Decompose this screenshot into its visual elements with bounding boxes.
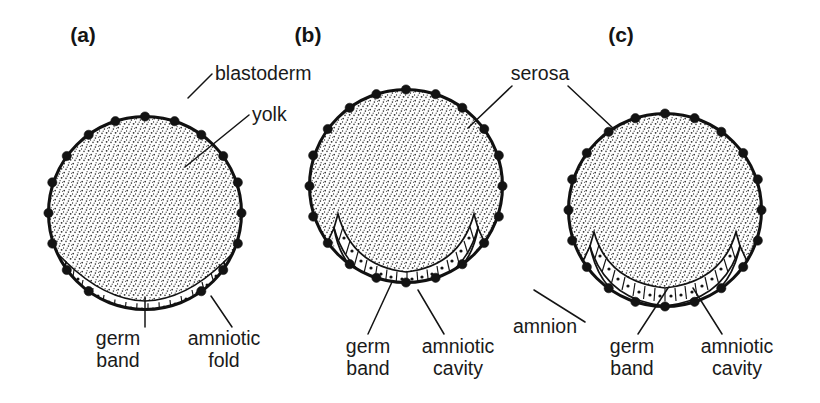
label-germ-band-b-line1: germ [346, 335, 390, 357]
panel-letter-b: (b) [295, 23, 322, 46]
label-amniotic-cavity-c-line1: amniotic [701, 335, 774, 357]
panel-c-egg [564, 109, 766, 344]
label-amniotic-fold-line1: amniotic [188, 327, 261, 349]
panel-letter-c: (c) [608, 23, 634, 46]
leader-germ-band-b [368, 282, 392, 334]
leader-serosa-right [568, 86, 615, 130]
label-amniotic-fold-line2: fold [208, 349, 239, 371]
label-blastoderm: blastoderm [215, 62, 311, 84]
label-germ-band-c-line1: germ [610, 335, 654, 357]
label-amnion: amnion [513, 315, 577, 337]
figure-container: (a) [0, 0, 820, 403]
label-germ-band-a-line2: band [96, 349, 139, 371]
leader-serosa-left [468, 86, 512, 128]
label-serosa: serosa [511, 62, 570, 84]
label-amniotic-cavity-c-line2: cavity [712, 357, 762, 379]
label-germ-band-a-line1: germ [96, 327, 140, 349]
leader-blastoderm [188, 74, 212, 98]
label-germ-band-c-line2: band [610, 357, 653, 379]
embryo-diagram-svg: (a) [0, 0, 820, 403]
panel-letter-a: (a) [70, 23, 96, 46]
label-yolk: yolk [252, 103, 287, 125]
label-amniotic-cavity-b-line1: amniotic [422, 335, 495, 357]
panel-b: (b) [295, 23, 508, 322]
label-germ-band-b-line2: band [346, 357, 389, 379]
panel-c: (c) [564, 23, 766, 344]
label-amniotic-cavity-b-line2: cavity [433, 357, 483, 379]
leader-amniotic-fold [211, 296, 232, 327]
leader-amniotic-cavity-b [418, 290, 444, 334]
